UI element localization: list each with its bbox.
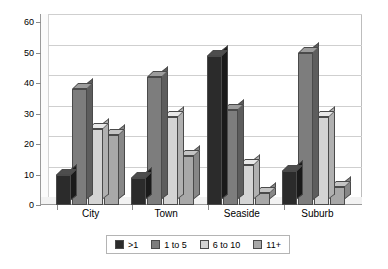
- bar-group: [282, 22, 352, 205]
- y-axis-tick-label: 10: [0, 170, 34, 180]
- bar[interactable]: [207, 56, 222, 205]
- bar[interactable]: [131, 178, 146, 205]
- y-axis-tick: [36, 175, 41, 176]
- bar-side: [162, 66, 168, 199]
- legend-swatch: [115, 240, 124, 249]
- legend-label: 1 to 5: [164, 240, 187, 250]
- bar-side: [222, 45, 228, 199]
- y-axis-tick-label: 60: [0, 17, 34, 27]
- y-axis-tick: [36, 53, 41, 54]
- y-axis-tick: [36, 144, 41, 145]
- y-axis-tick: [36, 83, 41, 84]
- legend-swatch: [253, 240, 262, 249]
- x-axis-tick: [57, 205, 58, 210]
- bar-side: [313, 42, 319, 199]
- y-axis-tick-label: 30: [0, 109, 34, 119]
- y-axis-tick: [36, 205, 41, 206]
- y-axis-tick: [36, 22, 41, 23]
- x-axis-tick: [132, 205, 133, 210]
- bar-side: [119, 124, 125, 199]
- legend-item[interactable]: 6 to 10: [200, 240, 241, 250]
- bar-side: [345, 176, 351, 199]
- legend-item[interactable]: 1 to 5: [151, 240, 187, 250]
- bar[interactable]: [282, 171, 297, 205]
- bar-side: [87, 78, 93, 199]
- legend-label: >1: [128, 240, 138, 250]
- gridline: [48, 14, 362, 15]
- chart-legend: >11 to 56 to 1011+: [106, 235, 290, 254]
- x-axis-tick: [284, 205, 285, 210]
- legend-item[interactable]: >1: [115, 240, 138, 250]
- plot-area: [40, 14, 362, 205]
- x-axis-category-label: Suburb: [272, 208, 362, 219]
- legend-label: 6 to 10: [213, 240, 241, 250]
- bar-group: [207, 22, 277, 205]
- x-axis-tick: [208, 205, 209, 210]
- y-axis-tick: [36, 114, 41, 115]
- legend-label: 11+: [266, 240, 281, 250]
- y-axis-tick-label: 50: [0, 48, 34, 58]
- bar-side: [238, 100, 244, 199]
- bar-face: [56, 175, 71, 206]
- legend-item[interactable]: 11+: [253, 240, 281, 250]
- bar-group: [56, 22, 126, 205]
- bar-side: [329, 106, 335, 199]
- bar[interactable]: [56, 175, 71, 206]
- bar-face: [282, 171, 297, 205]
- legend-swatch: [200, 240, 209, 249]
- y-axis-tick-label: 20: [0, 139, 34, 149]
- bar-chart: 0102030405060 CityTownSeasideSuburb >11 …: [0, 0, 388, 269]
- legend-swatch: [151, 240, 160, 249]
- bar-side: [178, 106, 184, 199]
- y-axis-tick-label: 0: [0, 200, 34, 210]
- bar-group: [131, 22, 201, 205]
- bar-face: [131, 178, 146, 205]
- y-axis-tick-label: 40: [0, 78, 34, 88]
- bar-side: [103, 118, 109, 199]
- bar-face: [207, 56, 222, 205]
